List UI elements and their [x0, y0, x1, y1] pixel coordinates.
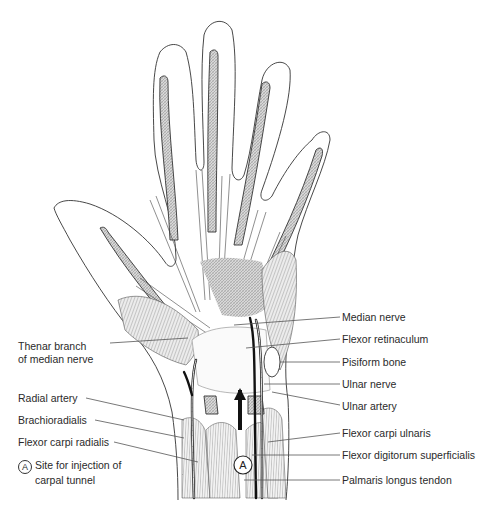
forearm-muscles — [182, 396, 286, 498]
label-palmaris-longus-tendon: Palmaris longus tendon — [342, 474, 452, 487]
label-brachioradialis: Brachioradialis — [18, 414, 87, 427]
marker-a-icon: A — [18, 460, 32, 474]
label-flexor-carpi-ulnaris: Flexor carpi ulnaris — [342, 427, 431, 440]
label-pisiform-bone: Pisiform bone — [342, 356, 406, 369]
label-thenar-branch: Thenar branch of median nerve — [18, 340, 110, 366]
label-injection-site: ASite for injection of carpal tunnel — [18, 459, 168, 487]
injection-site-marker: A — [234, 456, 252, 474]
label-median-nerve: Median nerve — [342, 311, 406, 324]
label-flexor-carpi-radialis: Flexor carpi radialis — [18, 436, 109, 449]
label-ulnar-artery: Ulnar artery — [342, 400, 397, 413]
label-flexor-retinaculum: Flexor retinaculum — [342, 333, 428, 346]
label-flexor-digitorum-superficialis: Flexor digitorum superficialis — [342, 449, 475, 462]
label-radial-artery: Radial artery — [18, 392, 78, 405]
deep-palm-region — [200, 258, 272, 317]
pisiform-bone-shape — [264, 347, 280, 377]
svg-text:A: A — [239, 459, 247, 471]
label-ulnar-nerve: Ulnar nerve — [342, 378, 396, 391]
